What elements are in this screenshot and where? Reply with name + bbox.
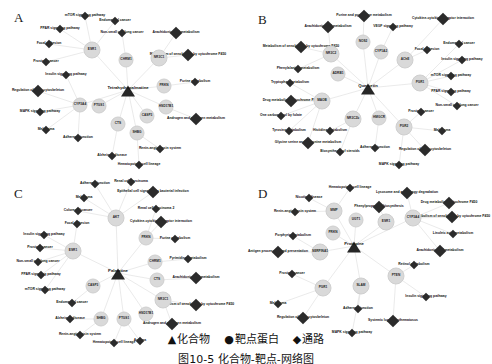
network-graph-b: Purine and pyrimidine metabolismArachido… [246, 2, 492, 170]
legend-label: 化合物 [177, 333, 210, 346]
target-label: PGR1 [319, 286, 328, 289]
target-label: SHBG [132, 131, 141, 134]
legend-symbol-icon: ▲ [168, 333, 176, 346]
target-label: UGT1 [352, 218, 361, 221]
compound-label: Quercetin [358, 84, 378, 88]
target-label: PGR2 [400, 125, 409, 128]
target-label: NOS2 [359, 40, 368, 43]
legend-symbol-icon: ● [224, 333, 234, 346]
network-graph-c: Adherens junctionRenal cell carcinomaEpi… [0, 178, 246, 346]
target-label: CYP3A4 [74, 103, 86, 106]
target-label: CHRM1 [149, 260, 160, 263]
legend-item-1: ●靶点蛋白 [224, 330, 279, 346]
target-label: PTEN [392, 274, 401, 277]
target-label: SLAM [356, 284, 365, 287]
figure-canvas: A mTOR signaling pathwayPPAR signaling p… [0, 0, 492, 364]
target-label: NR3C1 [158, 298, 168, 301]
target-label: NR3C2 [326, 52, 336, 55]
network-graph-d: Hematopoietic cell lineageNicotine disea… [246, 178, 492, 346]
target-label: AKT [113, 216, 120, 219]
target-label: SERPINA1 [312, 250, 328, 253]
figure-legend: ▲化合物●靶点蛋白◆通路 [0, 330, 492, 346]
target-label: PGR1 [416, 81, 425, 84]
target-label: ESR1 [88, 48, 96, 51]
legend-symbol-icon: ◆ [293, 333, 301, 346]
network-panel-b: B Purine and pyrimidine metabolismArachi… [246, 2, 492, 170]
legend-label: 靶点蛋白 [235, 333, 279, 346]
compound-label: Tetrahydropalmatine [107, 86, 148, 90]
target-label: NR3C1 [154, 56, 164, 59]
network-panel-d: D Hematopoietic cell lineageNicotine dis… [246, 178, 492, 346]
compound-label: Palmatine [108, 269, 128, 273]
target-label: HMGCR [373, 116, 385, 119]
target-label: PRKN [328, 231, 337, 234]
figure-caption: 图10-5 化合物-靶点-网络图 [0, 350, 492, 364]
target-label: HSD17B1 [159, 105, 173, 108]
target-label: CASP3 [88, 284, 99, 287]
target-label: CTS [154, 278, 160, 281]
compound-label: Protopine [344, 242, 364, 246]
target-label: ESR1 [382, 220, 390, 223]
network-graph-a: mTOR signaling pathwayPPAR signaling pat… [0, 2, 246, 170]
target-label: MMP [330, 209, 337, 212]
network-panel-a: A mTOR signaling pathwayPPAR signaling p… [0, 2, 246, 170]
legend-item-0: ▲化合物 [168, 330, 210, 346]
target-label: CYP3A4 [407, 216, 419, 219]
target-label: PTGS1 [94, 104, 104, 107]
target-label: PTGS1 [119, 317, 129, 320]
target-label: CYP1A2 [375, 50, 387, 53]
target-label: CASP3 [142, 114, 153, 117]
target-label: CHRM1 [120, 58, 131, 61]
target-label: ESR1 [69, 249, 77, 252]
target-label: MAOB [317, 99, 327, 102]
target-label: PRKN [159, 84, 168, 87]
target-label: NR3C2b [347, 117, 359, 120]
legend-label: 通路 [302, 333, 324, 346]
target-label: SHBG [96, 317, 105, 320]
target-label: AChE [401, 58, 410, 61]
legend-item-2: ◆通路 [293, 330, 324, 346]
target-label: PRKN [141, 236, 150, 239]
target-label: ADRB1 [333, 72, 344, 75]
target-label: CTS [115, 122, 121, 125]
target-label: HSD17B1 [139, 312, 153, 315]
network-panel-c: C Adherens junctionRenal cell carcinomaE… [0, 178, 246, 346]
